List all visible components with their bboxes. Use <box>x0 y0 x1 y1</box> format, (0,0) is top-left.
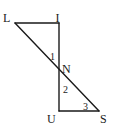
point-label-I: I <box>56 11 60 25</box>
angle-label-3: 3 <box>83 101 88 112</box>
angle-label-1: 1 <box>50 51 55 62</box>
point-label-N: N <box>62 62 71 76</box>
point-label-L: L <box>3 11 10 25</box>
segment-LS <box>15 23 99 111</box>
point-label-U: U <box>47 112 56 126</box>
geometry-diagram: L I N U S 1 2 3 <box>0 0 118 127</box>
angle-label-2: 2 <box>63 84 68 95</box>
point-label-S: S <box>100 112 107 126</box>
